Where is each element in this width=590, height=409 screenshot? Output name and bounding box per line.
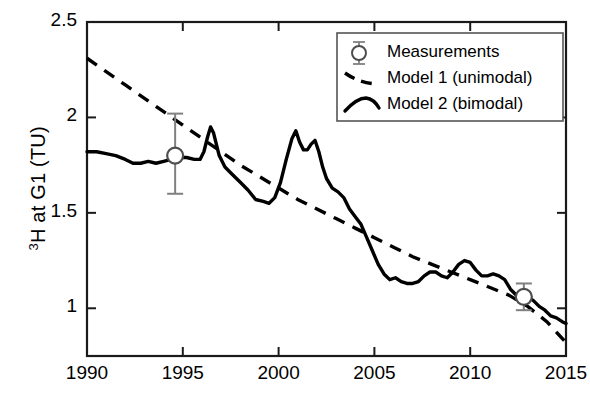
x-tick-1995: 1995: [143, 362, 223, 384]
y-tick-1.5: 1.5: [17, 200, 77, 222]
chart-svg: [0, 0, 590, 409]
figure-container: 3H at G1 (TU) 199019952000200520102015 1…: [0, 0, 590, 409]
x-tick-2015: 2015: [526, 362, 590, 384]
model2-bimodal-line: [87, 127, 566, 324]
legend-item-2: Model 1 (unimodal): [387, 68, 533, 88]
y-tick-1: 1: [17, 295, 77, 317]
x-tick-2010: 2010: [430, 362, 510, 384]
legend-item-1: Measurements: [387, 42, 499, 62]
x-tick-2005: 2005: [334, 362, 414, 384]
x-tick-1990: 1990: [47, 362, 127, 384]
y-tick-2.5: 2.5: [17, 9, 77, 31]
legend-item-3: Model 2 (bimodal): [387, 94, 523, 114]
x-tick-2000: 2000: [239, 362, 319, 384]
y-tick-2: 2: [17, 104, 77, 126]
